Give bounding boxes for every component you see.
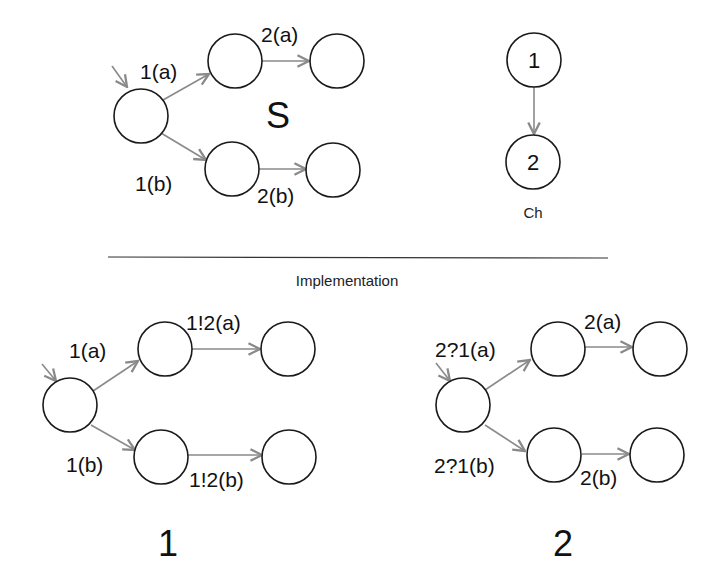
edge-2-1a [485, 360, 530, 390]
edge-label-1-1b: 1(b) [66, 453, 103, 476]
edge-label-1-2a: 1!2(a) [186, 311, 241, 334]
channel-node-1-label: 1 [528, 48, 540, 73]
state-s-b2 [306, 143, 360, 197]
edge-label-1-2b: 1!2(b) [189, 468, 244, 491]
state-s-initial [114, 89, 168, 143]
implementation-separator: Implementation [108, 257, 608, 289]
edge-label-2-2a: 2(a) [584, 310, 621, 333]
channel-ch: 1 2 Ch [506, 33, 561, 221]
edge-2-1b [485, 425, 525, 451]
automaton-s-title: S [266, 95, 290, 136]
edge-label-2-1b: 2?1(b) [434, 454, 495, 477]
state-2-a1 [531, 322, 585, 376]
edge-s-1b [161, 133, 206, 160]
state-2-b2 [630, 428, 684, 482]
edge-label-s-2a: 2(a) [261, 23, 298, 46]
state-1-a1 [138, 322, 192, 376]
state-2-b1 [527, 428, 581, 482]
state-s-a2 [310, 34, 364, 88]
state-1-initial [43, 378, 97, 432]
edge-1-1b [91, 425, 135, 450]
edge-label-2-1a: 2?1(a) [435, 338, 496, 361]
state-s-b1 [205, 142, 259, 196]
initial-arrow-icon [112, 66, 127, 87]
diagram-canvas: 1(a) 2(a) 1(b) 2(b) S 1 2 Ch Implementat… [0, 0, 725, 581]
edge-label-1-1a: 1(a) [69, 339, 106, 362]
edge-label-s-1b: 1(b) [135, 172, 172, 195]
initial-arrow-icon [436, 363, 450, 381]
automaton-impl-1: 1(a) 1!2(a) 1(b) 1!2(b) 1 [42, 311, 316, 564]
initial-arrow-icon [42, 364, 56, 381]
state-2-a2 [633, 322, 687, 376]
state-s-a1 [208, 34, 262, 88]
state-1-b2 [262, 430, 316, 484]
channel-node-2-label: 2 [527, 150, 539, 175]
edge-label-s-2b: 2(b) [257, 184, 294, 207]
state-1-b1 [134, 430, 188, 484]
automaton-s: 1(a) 2(a) 1(b) 2(b) S [112, 23, 364, 207]
automaton-1-title: 1 [158, 523, 178, 564]
separator-line [108, 257, 608, 258]
edge-1-1a [93, 361, 138, 391]
state-1-a2 [261, 322, 315, 376]
channel-title: Ch [523, 204, 542, 221]
edge-label-2-2b: 2(b) [580, 466, 617, 489]
automaton-impl-2: 2?1(a) 2(a) 2?1(b) 2(b) 2 [434, 310, 687, 564]
automaton-2-title: 2 [553, 523, 573, 564]
edge-label-s-1a: 1(a) [140, 60, 177, 83]
state-2-initial [436, 378, 490, 432]
separator-label: Implementation [296, 272, 399, 289]
